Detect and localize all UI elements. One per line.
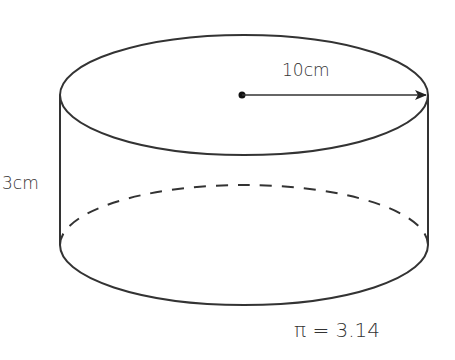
bottom-front-arc (60, 245, 428, 305)
cylinder-diagram (0, 0, 455, 360)
radius-label: 10cm (282, 60, 330, 80)
height-label: 3cm (2, 173, 39, 193)
bottom-back-dashed-arc (60, 185, 428, 245)
pi-value-label: π = 3.14 (294, 318, 380, 342)
